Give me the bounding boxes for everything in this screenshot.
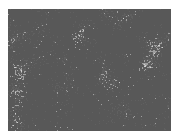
grain-texture: [8, 9, 171, 131]
micrograph-image: [8, 9, 171, 131]
